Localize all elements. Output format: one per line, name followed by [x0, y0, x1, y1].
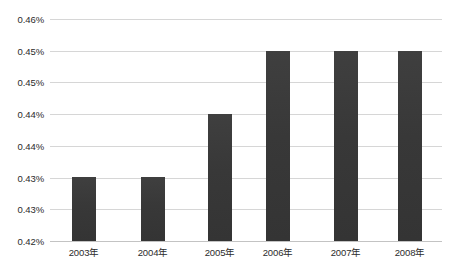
y-axis: 0.46%0.45%0.45%0.44%0.44%0.43%0.43%0.42%: [0, 0, 44, 279]
x-axis-line: [50, 241, 442, 242]
bar-series: [50, 19, 442, 241]
bar-2004[interactable]: [141, 177, 165, 241]
x-axis-tick-label: 2008年: [395, 245, 426, 259]
y-axis-tick-label: 0.43%: [0, 172, 44, 183]
x-axis-tick-label: 2003年: [69, 245, 100, 259]
x-axis-tick-label: 2004年: [138, 245, 169, 259]
y-axis-tick-label: 0.44%: [0, 140, 44, 151]
bar-2005[interactable]: [208, 114, 232, 241]
y-axis-tick-label: 0.43%: [0, 204, 44, 215]
y-axis-tick-label: 0.46%: [0, 14, 44, 25]
x-axis-tick-label: 2005年: [205, 245, 236, 259]
x-axis-tick-label: 2007年: [331, 245, 362, 259]
x-axis-tick-label: 2006年: [263, 245, 294, 259]
y-axis-tick-label: 0.42%: [0, 236, 44, 247]
bar-2008[interactable]: [398, 51, 422, 241]
bar-chart: 0.46%0.45%0.45%0.44%0.44%0.43%0.43%0.42%…: [0, 0, 450, 279]
x-axis: 2003年2004年2005年2006年2007年2008年: [50, 245, 442, 267]
y-axis-tick-label: 0.45%: [0, 77, 44, 88]
bar-2003[interactable]: [72, 177, 96, 241]
bar-2007[interactable]: [334, 51, 358, 241]
bar-2006[interactable]: [266, 51, 290, 241]
y-axis-tick-label: 0.44%: [0, 109, 44, 120]
y-axis-tick-label: 0.45%: [0, 45, 44, 56]
